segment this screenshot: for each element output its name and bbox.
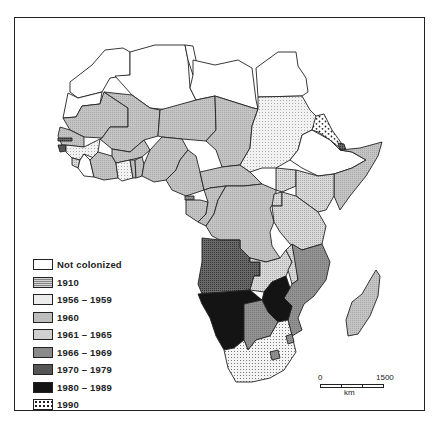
legend-swatch-1980-1989 xyxy=(33,382,53,393)
legend-swatch-1990 xyxy=(33,399,53,410)
legend-item: 1970 – 1979 xyxy=(33,361,122,379)
scale-end-label: 1500 xyxy=(376,373,394,382)
legend-swatch-1960 xyxy=(33,312,53,323)
legend-swatch-1910 xyxy=(33,277,53,288)
legend-item: 1956 – 1959 xyxy=(33,291,122,309)
region-uganda xyxy=(276,168,296,192)
legend-item: 1990 xyxy=(33,396,122,414)
scale-start-label: 0 xyxy=(318,373,322,382)
region-swaziland xyxy=(286,334,294,344)
legend-item: 1966 – 1969 xyxy=(33,344,122,362)
region-morocco xyxy=(70,48,130,98)
legend-item: 1960 xyxy=(33,309,122,327)
legend-swatch-1961-1965 xyxy=(33,329,53,340)
region-equatorial-guinea xyxy=(185,196,194,200)
map-legend: Not colonized 1910 1956 – 1959 1960 1961… xyxy=(33,256,122,414)
legend-swatch-1956-1959 xyxy=(33,294,53,305)
region-egypt xyxy=(256,52,308,97)
legend-swatch-1970-1979 xyxy=(33,364,53,375)
legend-swatch-1966-1969 xyxy=(33,347,53,358)
region-guinea-bissau xyxy=(58,145,66,152)
scale-unit-label: km xyxy=(344,388,355,397)
legend-item: 1980 – 1989 xyxy=(33,379,122,397)
legend-item: 1910 xyxy=(33,274,122,292)
region-madagascar xyxy=(346,270,380,336)
legend-item: Not colonized xyxy=(33,256,122,274)
legend-item: 1961 – 1965 xyxy=(33,326,122,344)
legend-swatch-not-colonized xyxy=(33,259,53,270)
region-lesotho xyxy=(270,350,280,360)
region-gambia xyxy=(58,138,72,141)
